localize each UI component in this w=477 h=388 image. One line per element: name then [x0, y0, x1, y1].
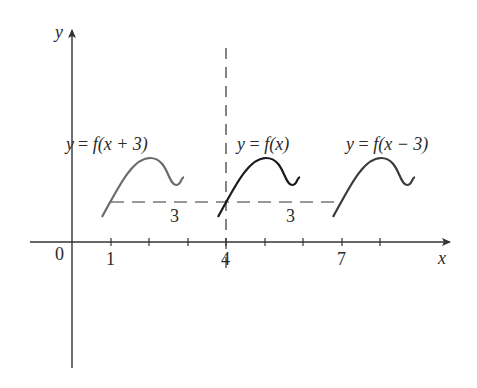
curve-shifted-right: [333, 158, 415, 217]
equation-shifted-left: y= f(x + 3): [64, 134, 148, 155]
tick-label-1: 1: [106, 249, 115, 269]
function-shift-diagram: y x 0 1 4 7 3 3 y= f(x + 3) y = f(x) y =…: [0, 0, 477, 388]
tick-label-4: 4: [221, 249, 230, 269]
shift-label-left: 3: [170, 206, 179, 226]
origin-label: 0: [55, 244, 64, 264]
equation-original: y = f(x): [235, 134, 289, 155]
shift-label-right: 3: [286, 206, 295, 226]
tick-label-7: 7: [337, 249, 346, 269]
equation-shifted-right: y = f(x − 3): [344, 134, 428, 155]
y-axis-label: y: [53, 22, 63, 42]
x-axis-label: x: [437, 248, 446, 268]
